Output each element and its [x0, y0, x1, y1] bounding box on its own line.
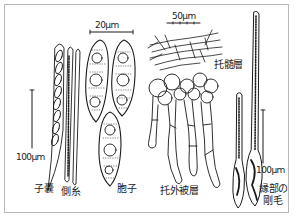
label-ascus: 子嚢 — [34, 184, 53, 194]
medullary-excipulum-drawing — [148, 30, 222, 70]
scale-label-100um-right: 100μm — [256, 166, 285, 175]
scale-bar-left-100um — [30, 90, 34, 148]
label-marginal-setae-line2: 剛毛 — [263, 196, 282, 206]
scale-label-20um: 20μm — [95, 21, 119, 30]
marginal-setae-drawing — [233, 11, 262, 208]
ectal-excipulum-drawing — [148, 73, 220, 188]
scale-label-100um-left: 100μm — [16, 153, 45, 162]
scale-label-50um: 50μm — [172, 12, 196, 21]
label-medullary-excipulum: 托髄層 — [214, 60, 243, 70]
label-marginal-setae-line1: 縁部の — [259, 184, 288, 194]
label-spore: 胞子 — [117, 184, 136, 194]
scale-bar-20um — [90, 30, 133, 34]
paraphysis-drawing — [65, 47, 80, 185]
spore-drawing — [86, 40, 135, 186]
label-ectal-excipulum: 托外被層 — [160, 186, 198, 196]
label-paraphysis: 側糸 — [61, 187, 80, 197]
ascus-drawing — [48, 44, 64, 190]
scale-bar-50um — [167, 22, 200, 24]
scale-bar-right-100um — [261, 110, 265, 163]
